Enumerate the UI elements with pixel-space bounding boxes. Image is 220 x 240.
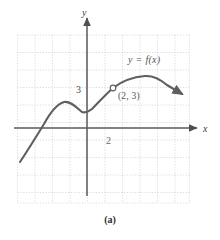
x-axis-tick-label-2: 2	[106, 136, 111, 146]
y-axis-tick-label-3: 3	[76, 85, 81, 95]
function-equation-label: y = f(x)	[128, 55, 160, 65]
graph-plot	[0, 0, 220, 240]
x-axis-label: x	[203, 124, 207, 134]
open-circle-point-marker	[110, 85, 116, 91]
figure-caption: (a)	[0, 214, 220, 225]
grid-lines	[18, 35, 190, 203]
point-coordinate-label: (2, 3)	[118, 92, 140, 102]
figure-container: y x y = f(x) (2, 3) 3 2 (a)	[0, 0, 220, 240]
y-axis-label: y	[82, 8, 86, 18]
